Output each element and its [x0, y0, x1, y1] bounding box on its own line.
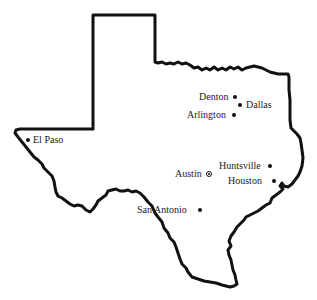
- city-label-huntsville: Huntsville: [219, 161, 261, 171]
- city-label-dallas: Dallas: [246, 100, 272, 110]
- city-dot-icon: [198, 208, 202, 212]
- city-label-san-antonio: San Antonio: [137, 205, 187, 215]
- city-dot-icon: [238, 103, 242, 107]
- city-dot-icon: [268, 164, 272, 168]
- city-label-el-paso: El Paso: [33, 135, 63, 145]
- city-label-arlington: Arlington: [187, 110, 226, 120]
- capital-star-icon: [206, 171, 212, 177]
- city-label-austin: Austin: [175, 169, 202, 179]
- city-dot-icon: [232, 113, 236, 117]
- texas-outline: [0, 0, 317, 300]
- city-label-denton: Denton: [199, 92, 228, 102]
- city-dot-icon: [26, 138, 30, 142]
- city-dot-icon: [272, 179, 276, 183]
- city-label-houston: Houston: [228, 176, 262, 186]
- city-dot-icon: [233, 95, 237, 99]
